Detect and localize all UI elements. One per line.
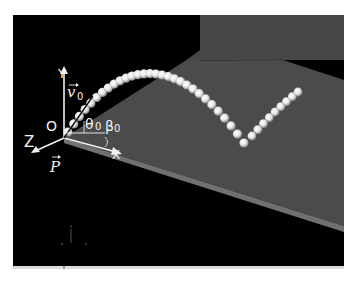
- trajectory-ball: [239, 138, 248, 147]
- velocity-subscript: 0: [77, 91, 83, 102]
- trajectory-ball: [294, 88, 303, 97]
- mini-z-label: z: [61, 242, 63, 246]
- origin-label: O: [46, 118, 57, 134]
- axis-y-label: Y: [57, 66, 66, 81]
- theta-subscript: 0: [95, 121, 101, 132]
- trajectory-ball: [220, 114, 229, 123]
- beta-subscript: 0: [114, 123, 120, 134]
- bottom-strip-mark: [63, 266, 65, 269]
- scene-canvas: Y X Z O v 0 θ 0 β 0 P y z x: [0, 0, 355, 282]
- theta-label: θ: [85, 116, 94, 132]
- mini-x-label: x: [85, 242, 87, 246]
- trajectory-ball: [214, 107, 223, 116]
- back-wall: [200, 15, 344, 61]
- velocity-label: v: [67, 83, 76, 101]
- axis-x-label: X: [112, 148, 120, 162]
- beta-label: β: [105, 118, 114, 134]
- mini-y-label: y: [70, 224, 72, 228]
- bottom-strip: [13, 266, 344, 269]
- normal-label: P: [49, 158, 61, 176]
- trajectory-ball: [233, 130, 242, 139]
- axis-z-label: Z: [24, 133, 34, 151]
- trajectory-ball: [227, 121, 236, 130]
